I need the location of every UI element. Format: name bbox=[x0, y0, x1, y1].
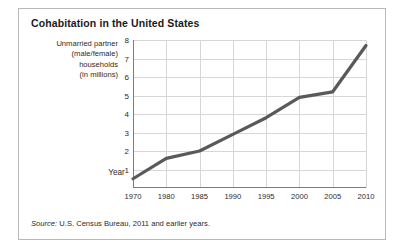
x-axis-tick-label: 1990 bbox=[224, 192, 241, 201]
x-axis-title: Year bbox=[0, 168, 233, 177]
y-axis-label-line: (in millions) bbox=[28, 70, 118, 80]
plot-area: 1234567819701980198519901995200020052010 bbox=[133, 40, 366, 188]
y-axis-tick-label: 7 bbox=[125, 54, 129, 63]
source-note: Source: U.S. Census Bureau, 2011 and ear… bbox=[31, 219, 210, 228]
x-axis-tick-label: 2000 bbox=[291, 192, 308, 201]
y-axis-tick-label: 4 bbox=[125, 110, 129, 119]
y-axis-label-line: (male/female) bbox=[28, 49, 118, 59]
y-axis-tick-label: 6 bbox=[125, 73, 129, 82]
source-text: U.S. Census Bureau, 2011 and earlier yea… bbox=[57, 219, 210, 228]
source-label: Source: bbox=[31, 219, 57, 228]
y-axis-label-line: households bbox=[28, 60, 118, 70]
x-axis-tick-label: 1970 bbox=[125, 192, 142, 201]
y-axis-tick-label: 8 bbox=[125, 36, 129, 45]
y-axis-tick-label: 3 bbox=[125, 128, 129, 137]
y-axis-tick-label: 5 bbox=[125, 91, 129, 100]
data-line-series bbox=[133, 40, 366, 188]
chart-figure: Cohabitation in the United States Unmarr… bbox=[0, 0, 403, 248]
y-axis-label-line: Unmarried partner bbox=[28, 39, 118, 49]
x-axis-tick-label: 1980 bbox=[158, 192, 175, 201]
gridline-vertical bbox=[366, 40, 367, 188]
x-axis-tick-label: 1995 bbox=[258, 192, 275, 201]
x-axis-tick-label: 1985 bbox=[191, 192, 208, 201]
x-axis-tick-label: 2005 bbox=[324, 192, 341, 201]
chart-title: Cohabitation in the United States bbox=[31, 17, 199, 29]
data-line bbox=[133, 46, 366, 179]
y-axis-tick-label: 2 bbox=[125, 147, 129, 156]
x-axis-tick-label: 2010 bbox=[358, 192, 375, 201]
y-axis-label: Unmarried partner (male/female) househol… bbox=[28, 39, 118, 81]
